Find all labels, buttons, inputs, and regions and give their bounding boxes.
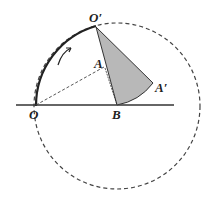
rotation-arrow-icon bbox=[58, 48, 71, 65]
shaded-sector bbox=[96, 27, 153, 105]
rotation-diagram: O′ A A′ O B bbox=[0, 0, 213, 204]
label-O: O bbox=[29, 107, 39, 122]
label-O-prime: O′ bbox=[89, 10, 102, 25]
label-B: B bbox=[111, 107, 121, 122]
arc-O-to-O-prime bbox=[36, 26, 96, 106]
label-A-prime: A′ bbox=[154, 80, 168, 95]
label-A: A bbox=[93, 56, 103, 71]
segment-O-A bbox=[36, 67, 104, 105]
